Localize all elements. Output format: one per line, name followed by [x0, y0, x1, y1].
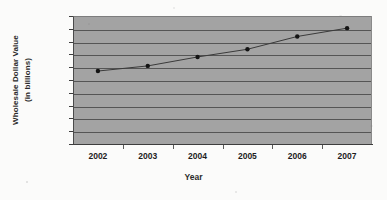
data-point-marker — [146, 64, 150, 68]
y-axis-title: Wholesale Dollar Value (in billions) — [8, 14, 42, 146]
x-axis-tick-label: 2006 — [272, 151, 322, 161]
data-series-layer — [73, 16, 372, 144]
y-axis-title-line-2: (in billions) — [23, 58, 32, 102]
x-axis-tick-label: 2007 — [322, 151, 372, 161]
x-axis-tick — [173, 145, 174, 149]
x-axis-tick — [322, 145, 323, 149]
chart-page: Wholesale Dollar Value (in billions) 010… — [0, 0, 387, 200]
x-axis-title: Year — [0, 172, 387, 182]
data-point-marker — [195, 55, 199, 59]
x-axis-tick-label: 2005 — [222, 151, 272, 161]
data-point-marker — [345, 26, 349, 30]
data-point-marker — [295, 34, 299, 38]
x-axis-tick-label: 2004 — [173, 151, 223, 161]
x-axis-tick-label: 2003 — [123, 151, 173, 161]
x-axis-tick — [272, 145, 273, 149]
x-axis-tick-label: 2002 — [73, 151, 123, 161]
data-point-marker — [245, 47, 249, 51]
x-axis-tick — [223, 145, 224, 149]
series-line — [98, 28, 347, 71]
y-axis-title-line-1: Wholesale Dollar Value — [11, 35, 20, 125]
data-point-marker — [96, 69, 100, 73]
x-axis-tick — [123, 145, 124, 149]
